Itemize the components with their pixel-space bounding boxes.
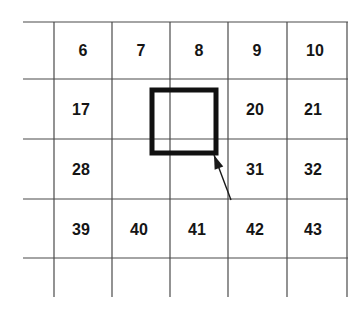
highlight-box	[152, 90, 216, 153]
grid-cell-label-20: 20	[246, 102, 264, 118]
grid-cell-label-9: 9	[253, 43, 262, 59]
grid-cell-label-8: 8	[195, 43, 204, 59]
grid-cell-label-41: 41	[188, 222, 206, 238]
grid-cell-label-21: 21	[304, 102, 322, 118]
grid-cell-label-28: 28	[72, 162, 90, 178]
grid-cell-label-6: 6	[79, 43, 88, 59]
grid-cell-label-10: 10	[306, 43, 324, 59]
grid-cell-label-39: 39	[72, 222, 90, 238]
callout-arrow-head	[214, 155, 223, 170]
grid-cell-label-31: 31	[246, 162, 264, 178]
grid-lines	[23, 22, 348, 297]
grid-cell-label-40: 40	[130, 222, 148, 238]
grid-figure: 6789101720212831323940414243	[0, 0, 360, 316]
grid-cell-label-42: 42	[246, 222, 264, 238]
grid-cell-label-17: 17	[72, 102, 90, 118]
grid-cell-label-7: 7	[137, 43, 146, 59]
grid-cell-label-43: 43	[304, 222, 322, 238]
grid-cell-label-32: 32	[304, 162, 322, 178]
